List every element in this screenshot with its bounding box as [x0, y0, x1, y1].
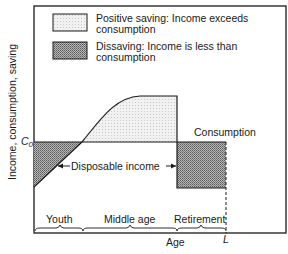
brace-retirement: [177, 225, 226, 231]
x-axis-label: Age: [166, 236, 185, 248]
phase-braces: [35, 225, 226, 231]
consumption-label: Consumption: [194, 126, 256, 138]
retirement-dissaving-area: [177, 142, 226, 188]
legend-swatch-dissaving: [53, 42, 87, 59]
y-axis-label: Income, consumption, saving: [6, 44, 18, 180]
phase-middle-age: Middle age: [104, 213, 156, 225]
life-cycle-diagram: Positive saving: Income exceeds consumpt…: [0, 0, 288, 254]
legend: Positive saving: Income exceeds consumpt…: [53, 12, 248, 63]
phase-youth: Youth: [46, 213, 73, 225]
brace-youth: [35, 225, 83, 231]
disposable-income-annotation: Disposable income: [58, 160, 176, 172]
positive-saving-area: [82, 96, 177, 142]
legend-swatch-positive-saving: [53, 14, 87, 31]
brace-middle-age: [83, 225, 177, 231]
disposable-income-label: Disposable income: [71, 160, 160, 172]
legend-dissaving-line2: consumption: [96, 51, 156, 63]
l-marker-label: L: [223, 233, 229, 245]
legend-positive-line2: consumption: [96, 23, 156, 35]
c0-label: C0: [21, 135, 34, 149]
phase-retirement: Retirement: [174, 213, 225, 225]
